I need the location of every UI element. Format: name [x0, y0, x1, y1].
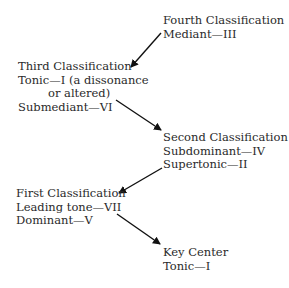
- node-title: First Classification: [16, 187, 126, 201]
- node-line: Tonic—I: [163, 260, 228, 274]
- node-second-classification: Second Classification Subdominant—IV Sup…: [163, 131, 288, 172]
- node-key-center: Key Center Tonic—I: [163, 246, 228, 273]
- node-line: Supertonic—II: [163, 158, 288, 172]
- node-title: Third Classification: [18, 60, 149, 74]
- node-first-classification: First Classification Leading tone—VII Do…: [16, 187, 126, 228]
- node-title: Second Classification: [163, 131, 288, 145]
- node-line: Subdominant—IV: [163, 145, 288, 159]
- node-line: Dominant—V: [16, 214, 126, 228]
- node-line: Submediant—VI: [18, 101, 149, 115]
- node-third-classification: Third Classification Tonic—I (a dissonan…: [18, 60, 149, 114]
- node-title: Fourth Classification: [163, 14, 284, 28]
- node-line: Mediant—III: [163, 28, 284, 42]
- node-line: or altered): [18, 87, 149, 101]
- node-title: Key Center: [163, 246, 228, 260]
- node-line: Tonic—I (a dissonance: [18, 74, 149, 88]
- node-line: Leading tone—VII: [16, 201, 126, 215]
- node-fourth-classification: Fourth Classification Mediant—III: [163, 14, 284, 41]
